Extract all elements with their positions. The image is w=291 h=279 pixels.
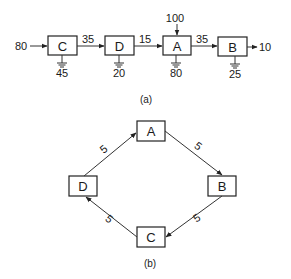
node-a-C: C [48, 36, 77, 55]
caption-b: (b) [144, 258, 156, 269]
edge-label: 35 [196, 33, 208, 45]
node-a-D: D [105, 36, 134, 55]
node-b-C: C [137, 227, 165, 247]
node-b-B: B [208, 176, 236, 196]
edge-label: 15 [139, 33, 151, 45]
node-label: A [173, 39, 182, 54]
top-input-label: 100 [166, 12, 184, 24]
ground-label: 80 [170, 67, 182, 79]
node-label: D [115, 39, 124, 54]
edge-label: 5 [97, 142, 109, 155]
caption-a: (a) [140, 94, 152, 105]
output-label-10: 10 [259, 41, 271, 53]
edge-label: 35 [82, 33, 94, 45]
ground-icon [114, 55, 124, 67]
node-label: A [147, 124, 156, 139]
node-label: C [58, 39, 67, 54]
edge-label: 5 [192, 139, 204, 152]
node-label: D [78, 179, 87, 194]
edge-A-B [165, 131, 222, 175]
ground-icon [171, 55, 181, 67]
ground-label: 25 [229, 68, 241, 80]
node-label: B [228, 40, 237, 55]
diagram-a: 80 C 45 35 D 20 15 [15, 12, 271, 105]
ground-label: 45 [56, 67, 68, 79]
node-label: C [146, 230, 155, 245]
ground-icon [230, 56, 240, 68]
diagram-canvas: 80 C 45 35 D 20 15 [0, 0, 291, 279]
ground-icon [57, 55, 67, 67]
diagram-b: A D B C 5 5 5 5 (b) [69, 121, 236, 269]
node-b-A: A [137, 121, 165, 141]
node-a-A: A [163, 36, 191, 55]
edge-D-A [84, 133, 136, 176]
input-label-80: 80 [15, 40, 27, 52]
ground-label: 20 [113, 67, 125, 79]
node-label: B [218, 179, 227, 194]
node-b-D: D [69, 176, 97, 196]
edge-label: 5 [191, 211, 203, 224]
node-a-B: B [218, 37, 247, 56]
